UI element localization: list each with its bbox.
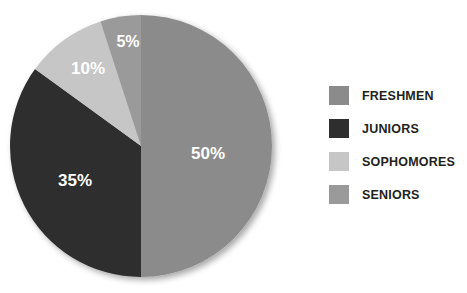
pie-chart-figure: 50%35%10%5% FRESHMEN JUNIORS SOPHOMORES … xyxy=(0,0,467,293)
legend-swatch-sophomores xyxy=(329,152,349,171)
legend-item-juniors[interactable]: JUNIORS xyxy=(329,112,467,145)
pie-chart-svg: 50%35%10%5% xyxy=(0,0,300,293)
legend-swatch-freshmen xyxy=(329,86,349,105)
pie-slice-value-sophomores: 10% xyxy=(71,59,105,78)
pie-slices-group xyxy=(10,15,272,277)
pie-slice-value-seniors: 5% xyxy=(116,33,139,50)
pie-slice-value-freshmen: 50% xyxy=(191,144,225,163)
legend-label-sophomores: SOPHOMORES xyxy=(362,155,455,169)
legend-item-freshmen[interactable]: FRESHMEN xyxy=(329,79,467,112)
legend-swatch-juniors xyxy=(329,119,349,138)
legend-item-sophomores[interactable]: SOPHOMORES xyxy=(329,145,467,178)
pie-chart-plot-area: 50%35%10%5% xyxy=(0,0,300,293)
pie-slice-value-juniors: 35% xyxy=(58,171,92,190)
legend-label-freshmen: FRESHMEN xyxy=(362,89,434,103)
legend-item-seniors[interactable]: SENIORS xyxy=(329,178,467,211)
legend-label-juniors: JUNIORS xyxy=(362,122,419,136)
legend-swatch-seniors xyxy=(329,185,349,204)
chart-legend: FRESHMEN JUNIORS SOPHOMORES SENIORS xyxy=(329,79,467,211)
legend-label-seniors: SENIORS xyxy=(362,188,420,202)
